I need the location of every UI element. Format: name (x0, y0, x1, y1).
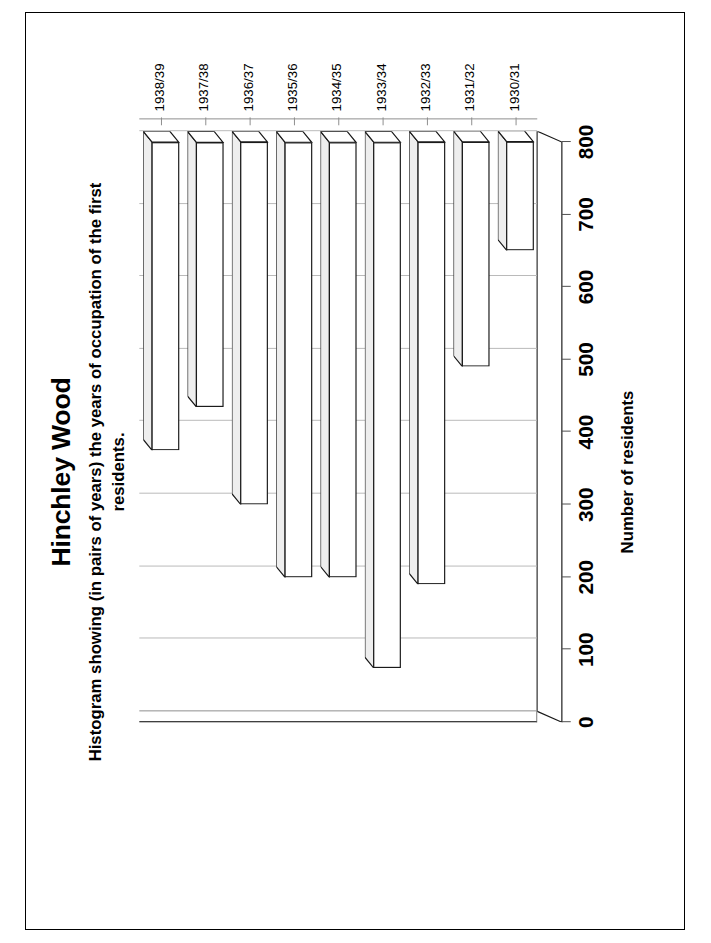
bar-1938-39[interactable] (143, 131, 171, 450)
value-tick-100 (561, 648, 570, 649)
category-label-1931-32: 1931/32 (462, 32, 477, 111)
category-tick-1932-33 (426, 117, 427, 125)
gridline-0 (139, 710, 537, 711)
category-label-1935-36: 1935/36 (285, 32, 300, 111)
category-label-1936-37: 1936/37 (240, 32, 255, 111)
category-label-1930-31: 1930/31 (506, 32, 521, 111)
category-label-1933-34: 1933/34 (373, 32, 388, 111)
category-label-1934-35: 1934/35 (329, 32, 344, 111)
value-label-400: 400 (574, 402, 598, 461)
value-label-700: 700 (574, 184, 598, 243)
bar-1934-35[interactable] (320, 131, 348, 577)
value-tick-400 (561, 431, 570, 432)
plot-area (139, 131, 537, 722)
value-label-200: 200 (574, 547, 598, 606)
chart-figure: Hinchley Wood Histogram showing (in pair… (40, 28, 670, 915)
value-axis-title: Number of residents (618, 28, 638, 915)
bar-1937-38[interactable] (187, 131, 215, 407)
category-tick-1937-38 (205, 117, 206, 125)
value-tick-0 (561, 721, 570, 722)
category-label-1938-39: 1938/39 (152, 32, 167, 111)
category-tick-1936-37 (249, 117, 250, 125)
chart-title: Hinchley Wood (46, 28, 77, 915)
value-label-0: 0 (574, 692, 598, 751)
category-tick-1935-36 (294, 117, 295, 125)
value-tick-500 (561, 358, 570, 359)
value-label-300: 300 (574, 475, 598, 534)
value-tick-300 (561, 503, 570, 504)
category-tick-1930-31 (515, 117, 516, 125)
value-tick-700 (561, 213, 570, 214)
category-tick-1933-34 (382, 117, 383, 125)
plot-floor (537, 131, 563, 722)
value-label-600: 600 (574, 257, 598, 316)
category-tick-1931-32 (470, 117, 471, 125)
bar-1936-37[interactable] (232, 131, 260, 504)
value-tick-200 (561, 576, 570, 577)
category-tick-1938-39 (161, 117, 162, 125)
gridline-100 (139, 637, 537, 638)
bar-1935-36[interactable] (276, 131, 304, 577)
value-tick-600 (561, 286, 570, 287)
bar-1933-34[interactable] (364, 131, 392, 668)
value-label-500: 500 (574, 330, 598, 389)
chart-subtitle: Histogram showing (in pairs of years) th… (84, 146, 129, 796)
value-label-800: 800 (574, 112, 598, 171)
value-label-100: 100 (574, 620, 598, 679)
value-tick-800 (561, 141, 570, 142)
category-tick-1934-35 (338, 117, 339, 125)
category-label-1932-33: 1932/33 (417, 32, 432, 111)
bar-1931-32[interactable] (453, 131, 481, 367)
bar-1932-33[interactable] (408, 131, 436, 584)
chart-page: Hinchley Wood Histogram showing (in pair… (0, 0, 711, 943)
rotated-figure-wrapper: Hinchley Wood Histogram showing (in pair… (40, 28, 670, 915)
category-label-1937-38: 1937/38 (196, 32, 211, 111)
bar-1930-31[interactable] (497, 131, 525, 251)
